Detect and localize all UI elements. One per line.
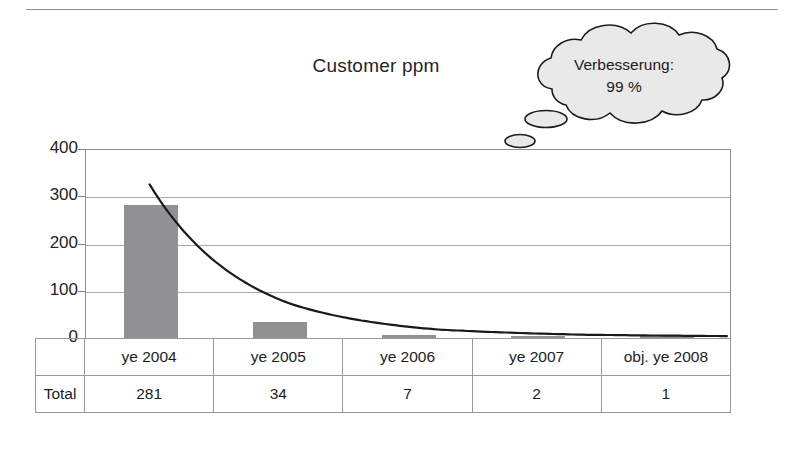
- value-cell-4: 1: [601, 376, 730, 413]
- y-axis-label-100: 100: [24, 280, 78, 300]
- header-divider: [26, 9, 778, 10]
- y-axis-label-200: 200: [24, 233, 78, 253]
- table-row-label: Total: [36, 376, 85, 413]
- data-table: ye 2004 ye 2005 ye 2006 ye 2007 obj. ye …: [35, 338, 731, 413]
- value-cell-1: 34: [214, 376, 343, 413]
- category-cell-4: obj. ye 2008: [601, 339, 730, 376]
- trend-curve: [85, 149, 731, 339]
- value-cell-2: 7: [343, 376, 472, 413]
- table-row-total: Total 281 34 7 2 1: [36, 376, 731, 413]
- category-cell-1: ye 2005: [214, 339, 343, 376]
- category-cell-2: ye 2006: [343, 339, 472, 376]
- thought-bubble-text: Verbesserung: 99 %: [524, 54, 724, 98]
- y-axis-label-300: 300: [24, 185, 78, 205]
- table-corner-blank: [36, 339, 85, 376]
- y-axis-label-400: 400: [24, 138, 78, 158]
- value-cell-3: 2: [472, 376, 601, 413]
- category-cell-0: ye 2004: [85, 339, 214, 376]
- value-cell-0: 281: [85, 376, 214, 413]
- category-cell-3: ye 2007: [472, 339, 601, 376]
- y-axis: 400 300 200 100 0: [20, 149, 78, 338]
- thought-bubble-annotation: Verbesserung: 99 %: [484, 22, 784, 162]
- bubble-line-2: 99 %: [524, 76, 724, 98]
- chart-title: Customer ppm: [276, 55, 476, 77]
- bubble-line-1: Verbesserung:: [574, 56, 674, 73]
- table-row-categories: ye 2004 ye 2005 ye 2006 ye 2007 obj. ye …: [36, 339, 731, 376]
